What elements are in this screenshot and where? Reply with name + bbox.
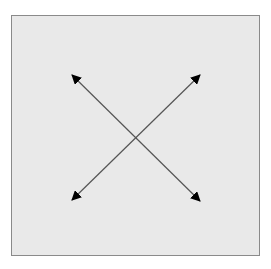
arrows-layer (0, 0, 271, 269)
diagram-canvas (0, 0, 271, 269)
